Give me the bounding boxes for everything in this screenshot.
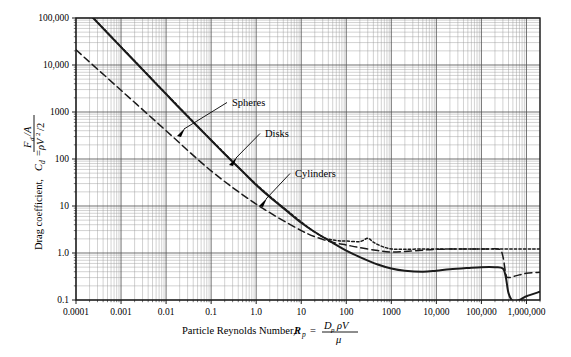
- y-tick-label: 1000: [50, 107, 69, 117]
- y-frac-den-rest: /2: [35, 123, 46, 131]
- y-tick-label: 1.0: [57, 248, 69, 258]
- x-tick-label: 100,000: [466, 307, 497, 317]
- x-tick-label: 10,000: [423, 307, 449, 317]
- x-frac-num-sub: p: [330, 326, 335, 334]
- x-tick-label: 0.1: [205, 307, 217, 317]
- x-frac-den: μ: [335, 334, 341, 345]
- annotation-label-cylinders: Cylinders: [295, 168, 336, 179]
- x-tick-label: 1000: [382, 307, 401, 317]
- x-tick-label: 0.001: [110, 307, 132, 317]
- drag-coefficient-chart: 0.00010.0010.010.11.010100100010,000100,…: [0, 0, 571, 357]
- x-frac-num-rest: ρV: [336, 320, 350, 331]
- x-tick-label: 1,000,000: [507, 307, 545, 317]
- annotation-label-spheres: Spheres: [232, 97, 265, 108]
- y-axis-label-text: Drag coefficient,: [33, 179, 44, 250]
- y-tick-label: 0.1: [57, 295, 69, 305]
- x-axis-label-symbol: R: [293, 325, 301, 336]
- y-frac-den-sup: 2: [34, 132, 42, 136]
- y-frac-num: F: [22, 141, 33, 149]
- y-axis-label-symbol-sub: d: [38, 160, 47, 164]
- y-tick-label: 100: [55, 154, 70, 164]
- x-tick-label: 0.0001: [63, 307, 89, 317]
- x-tick-label: 100: [339, 307, 354, 317]
- y-frac-num-rest: /A: [22, 126, 33, 137]
- x-axis-label-symbol-sub: p: [301, 330, 306, 339]
- x-tick-label: 10: [296, 307, 306, 317]
- x-tick-label: 0.01: [158, 307, 175, 317]
- x-axis-label-text: Particle Reynolds Number,: [182, 325, 296, 336]
- x-tick-label: 1.0: [250, 307, 262, 317]
- y-frac-den: ρV: [35, 137, 46, 151]
- y-tick-label: 10,000: [43, 60, 69, 70]
- y-tick-label: 10: [60, 201, 70, 211]
- x-axis-label-equals: =: [310, 325, 316, 336]
- y-tick-label: 100,000: [38, 13, 69, 23]
- annotation-label-disks: Disks: [265, 128, 289, 139]
